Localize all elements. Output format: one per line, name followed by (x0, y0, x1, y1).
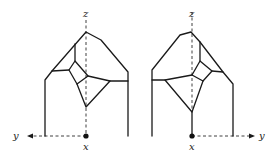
crystal-projection-diagram: z x y z x y (0, 0, 271, 154)
face-square-right (192, 61, 212, 81)
arrow-head-left-icon (27, 134, 33, 139)
edge-left-2 (52, 70, 69, 71)
y-label-right: y (258, 130, 265, 141)
origin-dot-right (189, 133, 194, 138)
face-triangle-right (165, 80, 203, 112)
right-figure: z x y (152, 8, 265, 152)
arrow-head-right-icon (249, 134, 255, 139)
x-label-left: x (83, 141, 89, 152)
edge-right-3 (152, 75, 192, 80)
z-label-right: z (188, 8, 195, 19)
x-label-right: x (189, 141, 195, 152)
face-square-left (69, 61, 88, 84)
origin-dot-left (83, 133, 88, 138)
edge-right-2 (212, 71, 223, 72)
outline-left (45, 32, 128, 136)
z-label-left: z (82, 8, 89, 19)
left-figure: z x y (12, 8, 128, 152)
y-label-left: y (12, 130, 19, 141)
